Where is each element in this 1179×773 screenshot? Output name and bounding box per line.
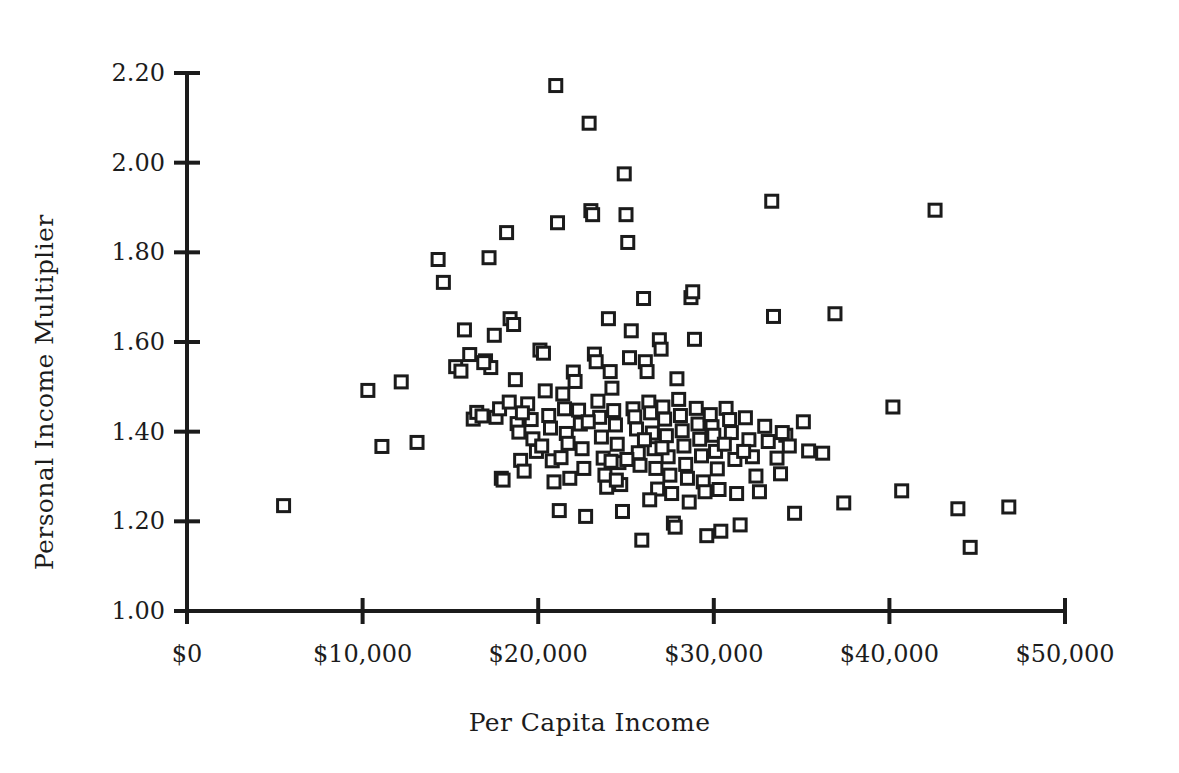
data-point-marker (583, 117, 595, 129)
data-point-marker (578, 462, 590, 474)
data-point-marker (518, 465, 530, 477)
data-point-marker (609, 419, 621, 431)
data-point-marker (680, 458, 692, 470)
data-point-marker (537, 347, 549, 359)
y-tick-label: 1.60 (55, 328, 165, 356)
data-point-marker (929, 204, 941, 216)
data-point-marker (952, 503, 964, 515)
data-point-marker (678, 440, 690, 452)
data-point-marker (797, 416, 809, 428)
data-point-marker (539, 385, 551, 397)
data-point-marker (694, 433, 706, 445)
data-point-marker (608, 405, 620, 417)
data-point-marker (432, 254, 444, 266)
data-point-marker (604, 366, 616, 378)
data-point-marker (701, 530, 713, 542)
data-point-marker (664, 469, 676, 481)
data-point-marker (602, 313, 614, 325)
data-point-marker (536, 440, 548, 452)
data-point-marker (562, 437, 574, 449)
data-point-marker (508, 319, 520, 331)
data-point-marker (671, 373, 683, 385)
data-point-marker (629, 411, 641, 423)
data-point-marker (766, 195, 778, 207)
data-point-marker (362, 384, 374, 396)
data-point-marker (724, 414, 736, 426)
data-point-marker (775, 468, 787, 480)
data-point-marker (501, 227, 513, 239)
scatter-chart: 1.001.201.401.601.802.002.20 $0$10,000$2… (0, 0, 1179, 773)
data-point-marker (715, 525, 727, 537)
data-point-marker (278, 500, 290, 512)
data-point-marker (618, 168, 630, 180)
data-point-marker (750, 470, 762, 482)
data-point-marker (488, 329, 500, 341)
data-point-marker (759, 420, 771, 432)
data-point-marker (509, 374, 521, 386)
data-point-marker (964, 541, 976, 553)
data-point-marker (690, 402, 702, 414)
data-point-marker (621, 453, 633, 465)
data-point-marker (544, 422, 556, 434)
data-point-marker (783, 440, 795, 452)
data-point-marker (687, 286, 699, 298)
data-point-marker (516, 407, 528, 419)
data-point-marker (376, 440, 388, 452)
data-point-marker (660, 430, 672, 442)
data-point-marker (464, 349, 476, 361)
data-point-marker (543, 410, 555, 422)
data-point-marker (1003, 501, 1015, 513)
data-point-marker (656, 442, 668, 454)
data-point-marker (713, 484, 725, 496)
data-point-marker (411, 436, 423, 448)
y-axis-title: Personal Income Multiplier (30, 214, 59, 570)
x-tick-label: $40,000 (840, 640, 939, 668)
data-point-marker (838, 497, 850, 509)
data-point-marker (569, 375, 581, 387)
y-tick-label: 2.00 (55, 149, 165, 177)
data-point-marker (644, 494, 656, 506)
data-point-marker (497, 474, 509, 486)
data-point-marker (711, 463, 723, 475)
data-point-marker (557, 388, 569, 400)
data-point-marker (634, 459, 646, 471)
data-point-marker (739, 412, 751, 424)
data-point-marker (803, 445, 815, 457)
data-point-marker (683, 496, 695, 508)
data-point-marker (887, 401, 899, 413)
data-point-marker (669, 521, 681, 533)
data-point-marker (503, 396, 515, 408)
data-point-marker (762, 436, 774, 448)
y-tick-label: 1.00 (55, 597, 165, 625)
data-point-marker (645, 407, 657, 419)
data-point-marker (605, 455, 617, 467)
y-tick-label: 1.20 (55, 507, 165, 535)
data-point-marker (550, 80, 562, 92)
data-point-marker (776, 427, 788, 439)
data-point-marker (611, 438, 623, 450)
data-point-marker (768, 310, 780, 322)
data-point-marker (829, 308, 841, 320)
data-point-marker (650, 462, 662, 474)
data-point-marker (641, 366, 653, 378)
data-point-marker (624, 352, 636, 364)
data-point-marker (610, 474, 622, 486)
data-point-marker (699, 486, 711, 498)
x-tick-label: $20,000 (489, 640, 588, 668)
data-point-marker (616, 505, 628, 517)
data-point-marker (738, 445, 750, 457)
data-point-marker (696, 450, 708, 462)
data-point-marker (455, 365, 467, 377)
data-point-marker (476, 410, 488, 422)
data-point-marker (580, 510, 592, 522)
data-point-marker (395, 376, 407, 388)
data-point-marker (681, 472, 693, 484)
data-point-marker (688, 333, 700, 345)
data-point-marker (734, 519, 746, 531)
x-tick-label: $50,000 (1015, 640, 1114, 668)
y-tick-label: 1.40 (55, 418, 165, 446)
data-point-group (278, 80, 1015, 554)
data-point-marker (458, 324, 470, 336)
data-point-marker (692, 418, 704, 430)
data-point-marker (555, 452, 567, 464)
